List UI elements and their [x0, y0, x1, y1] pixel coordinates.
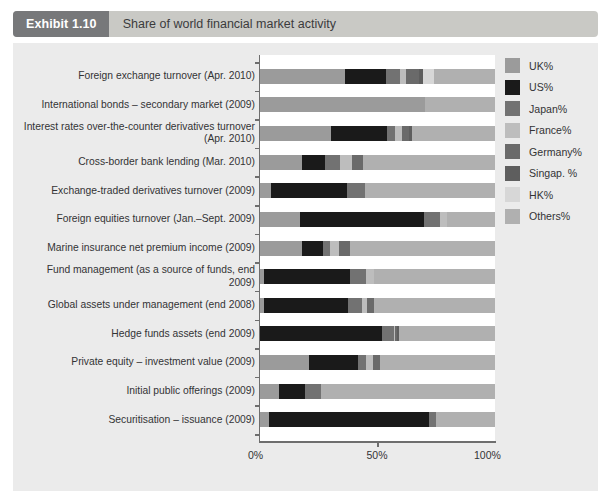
- x-axis-tick-label: 50%: [367, 449, 388, 461]
- bar-segment: [436, 412, 495, 427]
- bar-segment: [352, 155, 364, 170]
- bar-segment: [340, 155, 352, 170]
- bar-segment: [331, 126, 387, 141]
- bar-segment: [412, 126, 495, 141]
- category-axis-tick: [255, 119, 260, 121]
- category-axis-tick: [255, 148, 260, 150]
- legend-item[interactable]: Others%: [505, 206, 595, 228]
- legend-label: Singap. %: [529, 167, 577, 179]
- legend-swatch: [505, 187, 520, 202]
- category-label: Interest rates over-the-counter derivati…: [23, 121, 255, 146]
- category-label: Initial public offerings (2009): [23, 385, 255, 397]
- bar-segment: [366, 269, 374, 284]
- bar-segment: [260, 355, 309, 370]
- bar-segment: [366, 355, 373, 370]
- category-label: Cross-border bank lending (Mar. 2010): [23, 156, 255, 168]
- bar-segment: [321, 384, 495, 399]
- bar-segment: [300, 212, 425, 227]
- bar-segment: [350, 241, 495, 256]
- legend-item[interactable]: HK%: [505, 184, 595, 206]
- x-axis-tick: [377, 441, 379, 447]
- bar-segment: [260, 326, 382, 341]
- category-axis-labels: Foreign exchange turnover (Apr. 2010)Int…: [23, 55, 255, 441]
- legend-item[interactable]: US%: [505, 77, 595, 99]
- category-axis-tick: [255, 291, 260, 293]
- legend-label: US%: [529, 81, 553, 93]
- bar-row: [260, 126, 495, 141]
- bar-segment: [339, 241, 351, 256]
- category-label: Fund management (as a source of funds, e…: [23, 264, 255, 289]
- category-axis-tick: [255, 434, 260, 436]
- bar-segment: [363, 155, 495, 170]
- category-label: Exchange-traded derivatives turnover (20…: [23, 185, 255, 197]
- bar-segment: [330, 241, 338, 256]
- category-axis-tick: [255, 348, 260, 350]
- legend-label: HK%: [529, 189, 553, 201]
- bar-segment: [305, 384, 321, 399]
- bar-segment: [271, 183, 347, 198]
- category-axis-tick: [255, 91, 260, 93]
- bar-row: [260, 326, 495, 341]
- bar-segment: [447, 212, 495, 227]
- bar-row: [260, 97, 495, 112]
- category-label: Hedge funds assets (end 2009): [23, 328, 255, 340]
- bar-segment: [374, 298, 495, 313]
- bar-segment: [264, 298, 349, 313]
- bar-segment: [260, 241, 302, 256]
- bar-segment: [269, 412, 429, 427]
- legend-label: France%: [529, 124, 571, 136]
- bar-segment: [386, 69, 400, 84]
- legend-swatch: [505, 209, 520, 224]
- category-label: Private equity – investment value (2009): [23, 356, 255, 368]
- legend-label: Others%: [529, 210, 570, 222]
- legend-swatch: [505, 80, 520, 95]
- bar-segment: [260, 97, 425, 112]
- category-label: Marine insurance net premium income (200…: [23, 242, 255, 254]
- category-label: Global assets under management (end 2008…: [23, 299, 255, 311]
- bar-segment: [323, 241, 330, 256]
- bar-segment: [425, 97, 496, 112]
- bar-segment: [358, 355, 366, 370]
- bar-segment: [382, 326, 394, 341]
- bar-row: [260, 155, 495, 170]
- legend-item[interactable]: France%: [505, 120, 595, 142]
- category-label: Foreign equities turnover (Jan.–Sept. 20…: [23, 213, 255, 225]
- x-axis-tick-label: 0%: [248, 449, 263, 461]
- bar-segment: [279, 384, 305, 399]
- legend-swatch: [505, 166, 520, 181]
- bar-segment: [387, 126, 395, 141]
- plot-area: [259, 55, 495, 441]
- bar-row: [260, 269, 495, 284]
- category-axis-tick: [255, 62, 260, 64]
- category-label: Foreign exchange turnover (Apr. 2010): [23, 70, 255, 82]
- bar-segment: [348, 298, 362, 313]
- bar-segment: [440, 212, 447, 227]
- bar-segment: [260, 212, 300, 227]
- bar-row: [260, 183, 495, 198]
- bar-segment: [373, 355, 380, 370]
- bar-segment: [406, 69, 419, 84]
- legend-item[interactable]: Japan%: [505, 98, 595, 120]
- legend-item[interactable]: Singap. %: [505, 163, 595, 185]
- exhibit-title: Share of world financial market activity: [109, 11, 336, 37]
- legend-item[interactable]: Germany%: [505, 141, 595, 163]
- bar-segment: [429, 412, 436, 427]
- bar-segment: [367, 298, 374, 313]
- bar-segment: [380, 355, 495, 370]
- exhibit-number-tag: Exhibit 1.10: [13, 11, 109, 37]
- bar-segment: [434, 69, 495, 84]
- bar-row: [260, 355, 495, 370]
- x-axis-tick-label: 100%: [474, 449, 501, 461]
- legend-item[interactable]: UK%: [505, 55, 595, 77]
- category-axis-tick: [255, 405, 260, 407]
- bar-segment: [302, 155, 324, 170]
- bar-row: [260, 298, 495, 313]
- category-label: Securitisation – issuance (2009): [23, 414, 255, 426]
- bar-segment: [424, 212, 439, 227]
- bar-segment: [395, 126, 402, 141]
- bar-segment: [264, 269, 351, 284]
- chart-panel: Foreign exchange turnover (Apr. 2010)Int…: [13, 43, 598, 491]
- legend-label: Germany%: [529, 146, 582, 158]
- bar-segment: [260, 412, 269, 427]
- bar-segment: [260, 384, 279, 399]
